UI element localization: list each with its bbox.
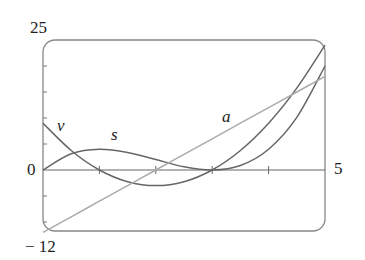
curve-label-v: v: [57, 117, 65, 134]
x-min-label: 0: [27, 161, 36, 178]
y-max-label: 25: [30, 19, 47, 36]
chart-plot: [0, 0, 365, 260]
curve-v: [43, 45, 325, 185]
curve-label-s: s: [111, 126, 118, 143]
curve-a: [43, 76, 325, 232]
x-max-label: 5: [334, 160, 343, 177]
y-min-label: − 12: [25, 238, 56, 255]
curve-label-a: a: [222, 108, 231, 125]
